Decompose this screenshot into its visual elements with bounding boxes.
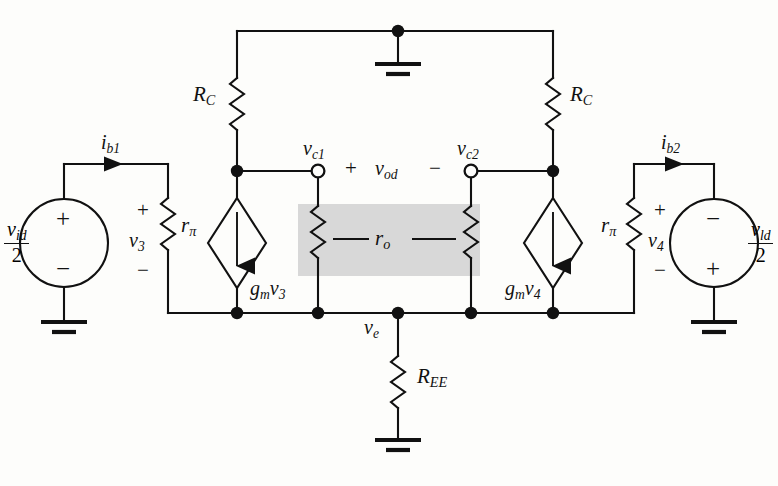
sign-v3-plus: +: [137, 198, 149, 223]
ground-left: [41, 322, 87, 332]
resistor-rpi-right: [627, 198, 641, 250]
resistor-rc-left: [230, 78, 244, 130]
label-ree: REE: [417, 364, 447, 391]
node-dot-ve: [392, 307, 404, 319]
sign-v3-minus: −: [137, 258, 149, 283]
ground-right: [691, 322, 737, 332]
label-rc-right: RC: [570, 82, 592, 109]
node-dot-emitter-left: [231, 307, 243, 319]
sign-vod-plus: +: [345, 156, 357, 181]
node-dot-ro-left-bottom: [312, 307, 324, 319]
node-dot-vc1: [231, 165, 243, 177]
sign-v4-plus: +: [654, 198, 666, 223]
label-ib2: ib2: [661, 131, 680, 157]
label-gm-v4: gmv4: [505, 277, 541, 303]
label-ve: ve: [364, 316, 379, 342]
label-vod: vod: [375, 157, 397, 183]
terminal-vc1: [312, 165, 325, 178]
label-rc-left: RC: [193, 82, 215, 109]
label-ro: ro: [375, 226, 390, 253]
node-dot-ground-top: [392, 25, 404, 37]
resistor-ree: [391, 356, 405, 408]
sign-src-left-bottom: −: [56, 255, 70, 283]
label-vc1: vc1: [303, 137, 325, 163]
sign-src-right-top: −: [706, 205, 720, 233]
sign-src-right-bottom: +: [706, 255, 720, 283]
resistor-rpi-left: [161, 198, 175, 250]
label-src-left-value: vid 2: [4, 219, 29, 265]
ground-top: [375, 64, 421, 74]
resistor-rc-right: [546, 78, 560, 130]
sign-v4-minus: −: [654, 258, 666, 283]
label-v3: v3: [129, 229, 145, 255]
label-src-right-value: vld 2: [748, 219, 773, 265]
node-dot-ro-right-bottom: [465, 307, 477, 319]
circuit-diagram: RC RC REE ib1 ib2 vc1 vc2 + vod − ro ve …: [0, 0, 778, 486]
label-v4: v4: [648, 229, 664, 255]
sign-src-left-top: +: [56, 205, 70, 233]
label-rpi-right: rπ: [601, 213, 616, 240]
label-ib1: ib1: [101, 131, 120, 157]
label-vc2: vc2: [457, 137, 479, 163]
sign-vod-minus: −: [429, 156, 441, 181]
ground-ree: [375, 440, 421, 450]
terminal-vc2: [465, 165, 478, 178]
node-dot-vc2: [547, 165, 559, 177]
label-gm-v3: gmv3: [250, 277, 286, 303]
node-dot-emitter-right: [547, 307, 559, 319]
label-rpi-left: rπ: [181, 213, 196, 240]
